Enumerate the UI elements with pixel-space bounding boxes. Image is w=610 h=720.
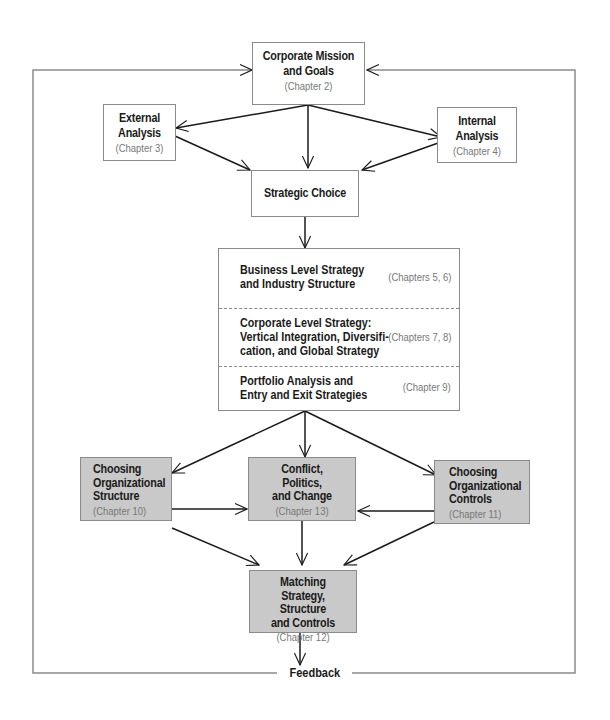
divider	[219, 366, 459, 367]
org-controls-chapter: (Chapter 11)	[449, 507, 518, 521]
internal-analysis-chapter: (Chapter 4)	[443, 144, 510, 158]
external-analysis-title: External Analysis	[109, 111, 170, 141]
conflict-box: Conflict, Politics, and Change (Chapter …	[248, 457, 356, 521]
strategy-portfolio-title: Portfolio Analysis and Entry and Exit St…	[240, 374, 412, 402]
strategy-business-chapter: (Chapters 5, 6)	[388, 271, 451, 283]
strategy-business-title: Business Level Strategy and Industry Str…	[240, 263, 412, 291]
strategy-row-business: Business Level Strategy and Industry Str…	[219, 263, 459, 295]
corporate-mission-chapter: (Chapter 2)	[261, 79, 356, 93]
external-analysis-chapter: (Chapter 3)	[109, 141, 170, 155]
arrow-mission-to-internal	[308, 105, 441, 137]
strategy-row-corporate: Corporate Level Strategy: Vertical Integ…	[219, 316, 459, 362]
divider	[219, 308, 459, 309]
strategic-choice-title: Strategic Choice	[259, 186, 350, 201]
conflict-title: Conflict, Politics, and Change	[256, 463, 347, 504]
strategy-portfolio-chapter: (Chapter 9)	[403, 381, 451, 393]
feedback-label: Feedback	[285, 666, 345, 680]
arrow-internal-to-choice	[362, 142, 441, 170]
internal-analysis-box: Internal Analysis (Chapter 4)	[437, 107, 517, 163]
org-structure-title: Choosing Organizational Structure	[93, 463, 160, 504]
strategy-levels-box: Business Level Strategy and Industry Str…	[218, 248, 460, 411]
corporate-mission-box: Corporate Mission and Goals (Chapter 2)	[252, 42, 365, 105]
arrow-mission-to-external	[176, 105, 308, 128]
arrow-external-to-choice	[175, 136, 250, 170]
matching-strategy-box: Matching Strategy, Structure and Control…	[249, 570, 357, 633]
external-analysis-box: External Analysis (Chapter 3)	[103, 104, 176, 161]
org-controls-box: Choosing Organizational Controls (Chapte…	[434, 460, 530, 524]
org-structure-chapter: (Chapter 10)	[93, 504, 160, 518]
strategy-row-portfolio: Portfolio Analysis and Entry and Exit St…	[219, 374, 459, 406]
matching-strategy-title: Matching Strategy, Structure and Control…	[257, 576, 348, 630]
strategic-choice-box: Strategic Choice	[251, 170, 359, 217]
arrow-structure-to-matching	[172, 528, 259, 565]
strategy-corporate-chapter: (Chapters 7, 8)	[388, 331, 451, 343]
org-structure-box: Choosing Organizational Structure (Chapt…	[80, 457, 172, 521]
strategy-corporate-title: Corporate Level Strategy: Vertical Integ…	[240, 316, 412, 358]
corporate-mission-title: Corporate Mission and Goals	[261, 49, 356, 79]
conflict-chapter: (Chapter 13)	[256, 504, 347, 518]
org-controls-title: Choosing Organizational Controls	[449, 466, 518, 507]
matching-strategy-chapter: (Chapter 12)	[257, 630, 348, 644]
internal-analysis-title: Internal Analysis	[443, 114, 510, 144]
arrow-controls-to-matching	[344, 522, 434, 565]
